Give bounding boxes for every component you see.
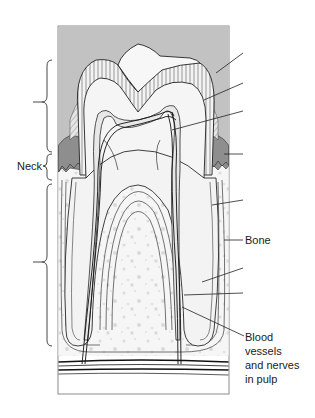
blood-vessels-label-line: vessels [245,344,315,358]
bone-label: Bone [245,233,271,247]
neck-bracket [43,154,52,180]
blood-vessels-label-line: in pulp [245,372,315,386]
neck-label: Neck [17,159,42,173]
crown-bracket [33,60,52,152]
blood-vessels-label-line: and nerves [245,358,315,372]
blood-vessels-label: Blood vessels and nerves in pulp [245,330,315,386]
blood-vessels-label-line: Blood [245,330,315,344]
root-bracket [33,184,52,346]
